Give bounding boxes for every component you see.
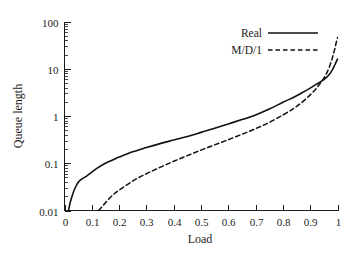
- legend-label-real: Real: [241, 27, 262, 39]
- x-tick-label: 0.8: [277, 216, 291, 228]
- queue-length-vs-load-chart: 0.010.1110100 00.10.20.30.40.50.60.70.80…: [0, 0, 358, 262]
- x-tick-label: 0.1: [86, 216, 100, 228]
- chart-figure: 0.010.1110100 00.10.20.30.40.50.60.70.80…: [0, 0, 358, 262]
- data-series-group: [69, 37, 338, 210]
- x-tick-label: 0.7: [250, 216, 264, 228]
- x-axis: 00.10.20.30.40.50.60.70.80.91: [63, 205, 342, 228]
- x-tick-label: 0.5: [195, 216, 209, 228]
- x-tick-label: 0.2: [113, 216, 127, 228]
- axis-spines: [65, 22, 338, 211]
- y-tick-label: 100: [42, 17, 59, 29]
- x-tick-label: 0.6: [222, 216, 236, 228]
- y-tick-label: 0.1: [45, 158, 59, 170]
- x-axis-title: Load: [188, 232, 213, 246]
- chart-legend: Real M/D/1: [231, 27, 318, 56]
- y-axis-title: Queue length: [11, 84, 25, 148]
- series-line-real: [69, 59, 338, 210]
- x-tick-label: 0: [63, 216, 69, 228]
- y-tick-label: 10: [48, 64, 60, 76]
- x-tick-label: 0.9: [304, 216, 318, 228]
- x-tick-label: 0.4: [168, 216, 182, 228]
- y-tick-label: 1: [53, 111, 59, 123]
- legend-label-md1: M/D/1: [231, 44, 262, 56]
- y-axis: 0.010.1110100: [39, 17, 71, 218]
- series-line-m-d-1: [99, 37, 338, 210]
- x-tick-label: 1: [336, 216, 342, 228]
- x-tick-label: 0.3: [140, 216, 154, 228]
- y-tick-label: 0.01: [39, 206, 58, 218]
